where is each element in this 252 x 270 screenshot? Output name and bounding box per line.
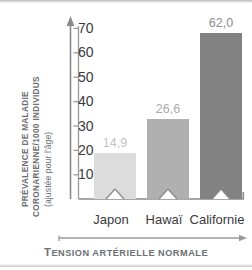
- bar-value-label-japon: 14,9: [85, 137, 145, 150]
- bar-series: 14,9 26,6 62,0: [62, 14, 247, 209]
- x-axis-title-rest: ENSION ARTÉRIELLE NORMALE: [51, 248, 208, 258]
- y-axis-title-line2: CORONARIENNE/1000 INDIVIDUS: [33, 76, 41, 217]
- x-axis-range-arrow: [58, 234, 250, 246]
- plot-area: 70 60 50 40 30 20 10 14,9 26,6 62,0: [62, 14, 247, 209]
- x-axis-category-labels: Japon Hawaï Californie: [62, 213, 252, 233]
- category-label-californie: Californie: [172, 213, 252, 226]
- bar-value-label-hawai: 26,6: [138, 103, 198, 116]
- y-axis-title-line3: (ajustée pour l'âge): [44, 132, 53, 207]
- bar-japon[interactable]: [94, 153, 136, 199]
- chart-figure: PRÉVALENCE DE MALADIE CORONARIENNE/1000 …: [0, 0, 252, 270]
- bar-hawai[interactable]: [147, 119, 189, 199]
- y-axis-title: PRÉVALENCE DE MALADIE CORONARIENNE/1000 …: [0, 0, 62, 225]
- bottom-border-band: [0, 264, 252, 267]
- x-axis-title: TENSION ARTÉRIELLE NORMALE: [0, 246, 252, 258]
- bar-value-label-californie: 62,0: [191, 17, 251, 30]
- bar-californie[interactable]: [200, 33, 242, 199]
- y-axis-title-line1: PRÉVALENCE DE MALADIE: [22, 91, 30, 207]
